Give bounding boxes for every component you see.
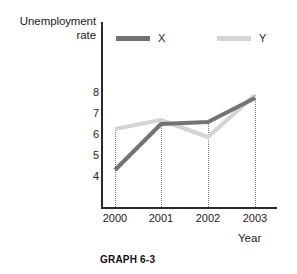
legend-label-x: X (158, 33, 165, 44)
x-axis-title: Year (238, 232, 261, 244)
series-y-line (115, 95, 255, 137)
legend-label-y: Y (259, 33, 266, 44)
x-tick-label-2003: 2003 (234, 212, 276, 224)
x-tick-label-2000: 2000 (94, 212, 136, 224)
chart-legend: X Y (112, 33, 277, 51)
x-tick-label-2002: 2002 (187, 212, 229, 224)
legend-item-x: X (116, 33, 165, 44)
graph-6-3-figure: Unemployment rate 8 7 6 5 4 2000 2001 20… (0, 0, 297, 274)
series-x-line (115, 98, 255, 170)
figure-caption: GRAPH 6-3 (100, 254, 155, 265)
legend-swatch-y-icon (217, 36, 251, 41)
x-tick-label-2001: 2001 (140, 212, 182, 224)
legend-swatch-x-icon (116, 36, 150, 41)
legend-item-y: Y (217, 33, 266, 44)
